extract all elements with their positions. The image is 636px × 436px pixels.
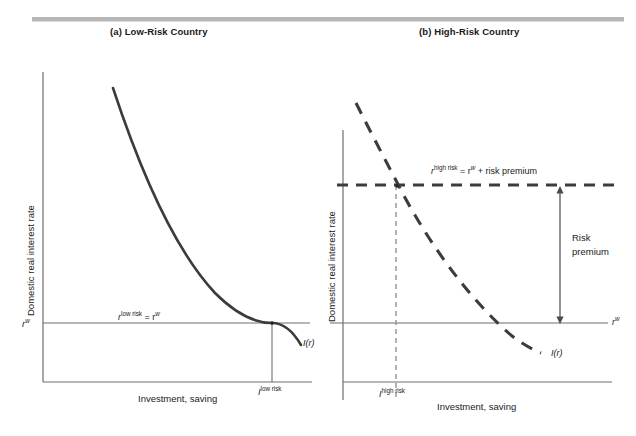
panel-b-x-axis-label: Investment, saving xyxy=(437,402,516,412)
panel-b-quantity-label: Ihigh risk xyxy=(379,388,405,399)
panel-a-note-rest-sup: w xyxy=(155,310,160,317)
panel-a-x-axis-label: Investment, saving xyxy=(138,394,217,404)
panel-b-note-rest-sup: w xyxy=(471,164,476,171)
panel-a-investment-curve-label: I(r) xyxy=(303,339,315,348)
panel-b-risk-premium-arrow xyxy=(556,186,563,324)
panel-b-world-rate-right-label: rw xyxy=(612,316,620,327)
figure-container: (a) Low-Risk Country Domestic real inter… xyxy=(0,0,636,436)
panel-b-title: (b) High-Risk Country xyxy=(419,27,519,37)
panel-b-quantity-sup: high risk xyxy=(382,387,405,394)
panel-b-high-risk-note: rhigh risk = rw + risk premium xyxy=(431,165,537,176)
panel-b-world-rate-right-sup: w xyxy=(615,315,620,322)
panel-b-y-axis-label: Domestic real interest rate xyxy=(327,211,337,322)
panel-b-risk-premium-label-line1: Risk xyxy=(572,233,590,243)
panel-b-risk-premium-label-line2: premium xyxy=(572,247,609,257)
panel-b-note-rest: = r xyxy=(460,166,471,176)
panel-a-investment-curve xyxy=(113,88,301,345)
panel-a-equilibrium-note: rlow risk = rw xyxy=(118,311,160,322)
panel-a-world-rate-tick-sup: w xyxy=(25,317,30,324)
panel-b-note-sup: high risk xyxy=(434,164,457,171)
panel-a-note-sup: low risk xyxy=(121,310,142,317)
panel-b-investment-curve-label: I(r) xyxy=(551,349,563,358)
panel-a-note-rest: = r xyxy=(145,312,156,322)
panel-a-equilibrium-point xyxy=(270,321,274,325)
panel-a-y-axis-label: Domestic real interest rate xyxy=(26,205,36,316)
panel-b-investment-curve xyxy=(356,103,541,353)
header-rule-bar xyxy=(32,17,624,22)
panel-b-note-tail: + risk premium xyxy=(478,166,537,176)
panel-a-world-rate-tick-label: rw xyxy=(22,318,30,329)
panel-a-title: (a) Low-Risk Country xyxy=(110,27,208,37)
panel-b-equilibrium-point xyxy=(395,184,399,188)
panel-a-quantity-sup: low risk xyxy=(261,385,282,392)
panel-a-quantity-label: Ilow risk xyxy=(258,386,282,397)
figure-svg xyxy=(0,0,636,436)
